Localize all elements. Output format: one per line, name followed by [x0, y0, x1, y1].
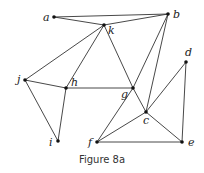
node-a	[52, 15, 56, 19]
node-i	[56, 139, 60, 143]
edge-c-e	[146, 112, 182, 142]
node-label-k: k	[108, 24, 115, 37]
edge-c-f	[97, 112, 146, 142]
edge-a-k	[54, 17, 104, 25]
edge-b-g	[133, 14, 168, 88]
node-g	[131, 86, 135, 90]
node-label-d: d	[185, 46, 192, 59]
edge-d-e	[182, 62, 186, 142]
edge-j-i	[25, 80, 58, 141]
edge-h-i	[58, 88, 66, 141]
node-label-g: g	[121, 88, 128, 101]
figure-caption: Figure 8a	[0, 154, 204, 165]
node-label-c: c	[143, 114, 149, 127]
node-b	[166, 12, 170, 16]
node-f	[95, 140, 99, 144]
node-label-f: f	[87, 136, 94, 149]
edge-g-c	[133, 88, 146, 112]
node-d	[184, 60, 188, 64]
node-j	[23, 78, 27, 82]
edge-b-c	[146, 14, 168, 112]
node-label-j: j	[14, 73, 21, 86]
node-label-e: e	[188, 136, 195, 149]
edge-j-h	[25, 80, 66, 88]
node-k	[102, 23, 106, 27]
node-e	[180, 140, 184, 144]
graph-diagram: abkjhgdcife	[0, 0, 204, 150]
node-h	[64, 86, 68, 90]
edge-k-j	[25, 25, 104, 80]
node-label-i: i	[49, 136, 53, 149]
node-label-a: a	[43, 11, 50, 24]
node-label-h: h	[71, 76, 78, 89]
node-label-b: b	[173, 8, 180, 21]
